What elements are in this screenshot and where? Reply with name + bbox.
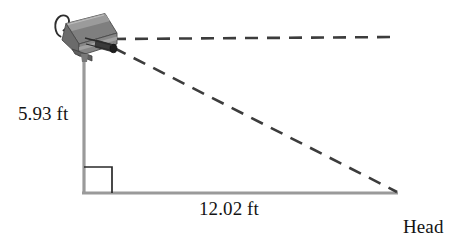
head-teller-label: Head teller: [403, 172, 444, 236]
head-teller-label-line1: Head: [403, 216, 444, 236]
security-camera-icon: [55, 14, 117, 63]
vertical-leg-label: 5.93 ft: [18, 103, 68, 124]
line-of-sight-dashed-line: [114, 48, 397, 192]
horizontal-reference-dashed-line: [113, 37, 398, 39]
geometry-figure: 5.93 ft 12.02 ft Head teller: [0, 0, 473, 236]
horizontal-leg-label: 12.02 ft: [199, 198, 259, 219]
right-angle-marker-icon: [84, 167, 112, 193]
